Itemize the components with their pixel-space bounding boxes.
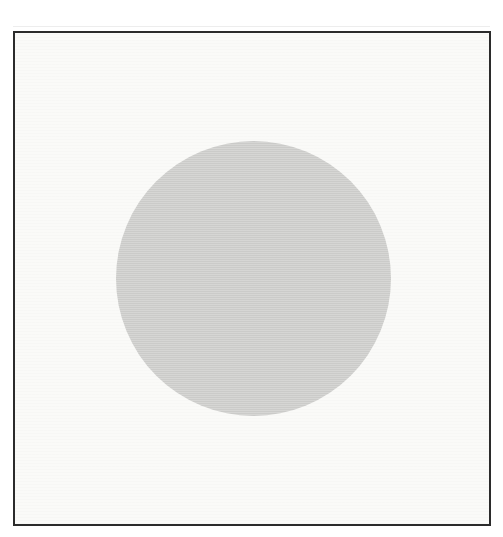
page-background xyxy=(0,0,503,537)
scan-artifact-line xyxy=(13,26,490,27)
figure-frame xyxy=(13,31,491,526)
gray-disc xyxy=(116,141,391,416)
